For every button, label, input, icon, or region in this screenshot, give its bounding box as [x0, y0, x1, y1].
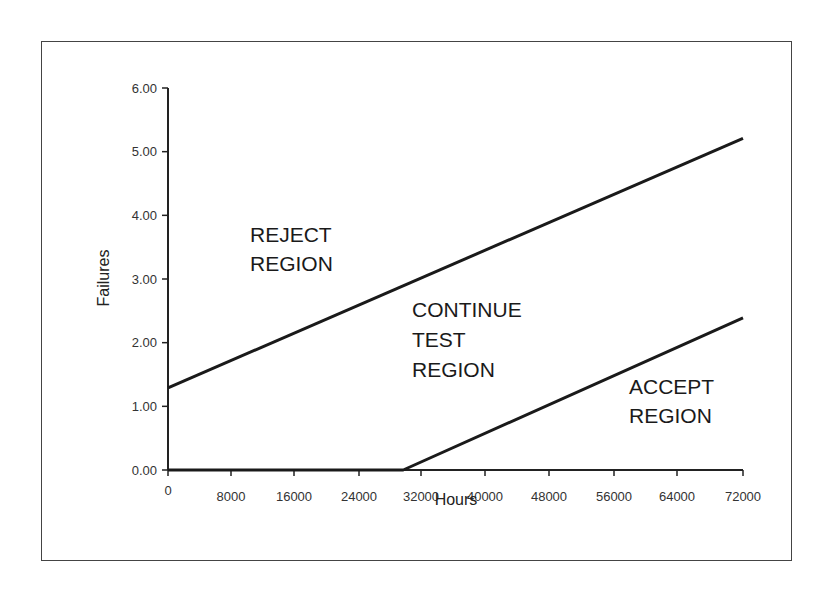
accept-line-2: REGION: [629, 404, 712, 427]
x-tick-label: 24000: [341, 489, 377, 504]
continue-region-label: CONTINUE TEST REGION: [412, 298, 528, 381]
reject-line-2: REGION: [250, 252, 333, 275]
x-axis-title: Hours: [435, 491, 478, 508]
x-tick-label: 56000: [596, 489, 632, 504]
reject-line-1: REJECT: [250, 223, 332, 246]
reject-region-label: REJECT REGION: [250, 223, 337, 275]
y-axis-title: Failures: [95, 250, 112, 307]
y-tick-label: 3.00: [132, 272, 157, 287]
y-tick-label: 1.00: [132, 399, 157, 414]
x-tick-label: 16000: [276, 489, 312, 504]
y-tick-label: 6.00: [132, 81, 157, 96]
x-tick-label: 8000: [217, 489, 246, 504]
continue-line-2: TEST: [412, 328, 466, 351]
y-tick-label: 0.00: [132, 463, 157, 478]
x-tick-label: 72000: [725, 489, 761, 504]
x-tick-label: 32000: [403, 489, 439, 504]
continue-line-3: REGION: [412, 358, 495, 381]
x-tick-label: 64000: [659, 489, 695, 504]
y-tick-label: 2.00: [132, 335, 157, 350]
x-tick-label: 0: [164, 483, 171, 498]
axis-ticks: 0.001.002.003.004.005.006.00080001600024…: [132, 81, 761, 505]
continue-line-1: CONTINUE: [412, 298, 522, 321]
y-tick-label: 5.00: [132, 144, 157, 159]
y-tick-label: 4.00: [132, 208, 157, 223]
sequential-test-chart: 0.001.002.003.004.005.006.00080001600024…: [0, 0, 831, 598]
accept-line-1: ACCEPT: [629, 375, 714, 398]
accept-region-label: ACCEPT REGION: [629, 375, 720, 427]
x-tick-label: 48000: [531, 489, 567, 504]
